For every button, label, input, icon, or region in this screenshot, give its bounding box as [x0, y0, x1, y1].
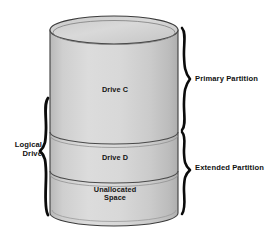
diagram-canvas: Drive C Drive D Unallocated Space Primar…: [0, 0, 273, 234]
segment-label-drive-c: Drive C: [56, 86, 174, 94]
cylinder-top-ellipse: [50, 16, 178, 45]
segment-label-unallocated-space: Unallocated Space: [56, 186, 174, 202]
annotation-label-logical-drive: Logical Drive: [4, 141, 42, 158]
annotation-label-primary-partition: Primary Partition: [195, 75, 258, 84]
brace-extended-partition: [182, 132, 190, 214]
annotation-label-extended-partition: Extended Partition: [195, 164, 264, 173]
brace-primary-partition: [182, 28, 190, 130]
segment-label-drive-d: Drive D: [56, 154, 174, 162]
